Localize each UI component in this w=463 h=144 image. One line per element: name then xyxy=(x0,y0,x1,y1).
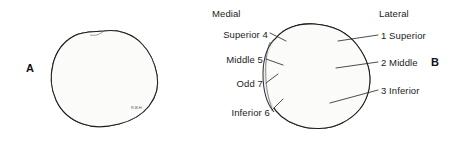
panel-b-bone xyxy=(258,20,376,134)
panel-a-letter: A xyxy=(26,62,34,74)
callout-label-3-inferior: 3 Inferior xyxy=(381,85,420,96)
orientation-label-lateral: Lateral xyxy=(379,8,409,19)
callout-label-middle-5: Middle 5 xyxy=(170,54,263,65)
panel-b-letter: B xyxy=(431,56,439,68)
artist-signature: R.B.H. xyxy=(131,105,143,110)
callout-label-1-superior: 1 Superior xyxy=(381,30,426,41)
anatomical-figure: R.B.H. xyxy=(0,0,463,144)
panel-a-illustration: R.B.H. xyxy=(0,0,463,144)
callout-label-superior-4: Superior 4 xyxy=(170,29,268,40)
callout-label-2-middle: 2 Middle xyxy=(381,57,418,68)
panel-a-bone: R.B.H. xyxy=(50,26,164,132)
callout-label-inferior-6: Inferior 6 xyxy=(170,107,270,118)
callout-label-odd-7: Odd 7 xyxy=(170,78,263,89)
orientation-label-medial: Medial xyxy=(212,8,241,19)
